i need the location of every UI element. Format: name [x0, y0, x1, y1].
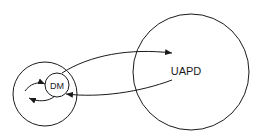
arrow-dm-to-uapd [62, 51, 172, 73]
uapd-label: UAPD [171, 65, 202, 77]
dm-label: DM [50, 81, 64, 91]
diagram-canvas: DM UAPD [0, 0, 259, 136]
arrow-uapd-to-dm [66, 80, 172, 95]
arrow-loop-in [25, 83, 45, 91]
arrow-loop-out [29, 96, 55, 101]
